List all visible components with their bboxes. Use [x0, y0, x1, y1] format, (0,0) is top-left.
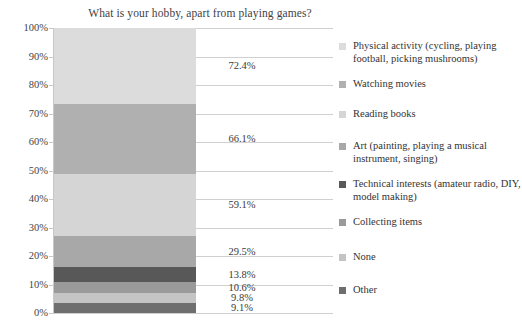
legend-swatch-icon — [339, 111, 346, 118]
y-axis-tick-label: 10% — [4, 279, 48, 290]
legend-swatch-icon — [339, 43, 346, 50]
y-axis-tick-mark — [49, 285, 53, 286]
legend-item[interactable]: Watching movies — [339, 78, 522, 91]
bar-segment[interactable] — [54, 28, 196, 104]
legend-swatch-icon — [339, 219, 346, 226]
bar-segment[interactable] — [54, 174, 196, 236]
legend-item-label: Reading books — [353, 108, 416, 121]
data-label: 59.1% — [202, 200, 282, 211]
stacked-bar-chart: What is your hobby, apart from playing g… — [0, 0, 522, 334]
y-axis-tick-mark — [49, 85, 53, 86]
y-axis-tick-mark — [49, 199, 53, 200]
y-axis-tick-mark — [49, 228, 53, 229]
legend-swatch-icon — [339, 143, 346, 150]
y-axis-tick-label: 100% — [4, 23, 48, 34]
legend-item-label: Watching movies — [353, 78, 426, 91]
y-axis-tick-label: 60% — [4, 137, 48, 148]
y-axis-tick-label: 30% — [4, 222, 48, 233]
chart-title: What is your hobby, apart from playing g… — [0, 7, 400, 19]
legend-item-label: None — [353, 251, 376, 264]
legend-swatch-icon — [339, 81, 346, 88]
legend-item[interactable]: Other — [339, 284, 522, 297]
data-label: 9.1% — [202, 303, 282, 314]
gridline — [54, 313, 333, 314]
legend-item-label: Other — [353, 284, 377, 297]
y-axis-tick-mark — [49, 256, 53, 257]
legend-item-label: Physical activity (cycling, playing foot… — [353, 40, 522, 65]
bar-segment[interactable] — [54, 104, 196, 174]
legend-item[interactable]: Art (painting, playing a musical instrum… — [339, 140, 522, 165]
bar-segment[interactable] — [54, 293, 196, 303]
legend-item-label: Collecting items — [353, 216, 422, 229]
y-axis: 100%90%80%70%60%50%40%30%20%10%0% — [0, 28, 48, 313]
data-label: 72.4% — [202, 61, 282, 72]
y-axis-tick-label: 70% — [4, 108, 48, 119]
y-axis-tick-label: 90% — [4, 51, 48, 62]
y-axis-tick-mark — [49, 313, 53, 314]
y-axis-tick-mark — [49, 142, 53, 143]
data-label: 13.8% — [202, 269, 282, 280]
legend-item-label: Art (painting, playing a musical instrum… — [353, 140, 522, 165]
legend-item[interactable]: Collecting items — [339, 216, 522, 229]
y-axis-tick-mark — [49, 28, 53, 29]
bar-segment[interactable] — [54, 282, 196, 293]
legend-item[interactable]: None — [339, 251, 522, 264]
y-axis-tick-label: 0% — [4, 308, 48, 319]
y-axis-tick-label: 50% — [4, 165, 48, 176]
y-axis-tick-mark — [49, 171, 53, 172]
bar-stack — [54, 28, 196, 313]
y-axis-tick-label: 80% — [4, 80, 48, 91]
legend-swatch-icon — [339, 181, 346, 188]
legend-item[interactable]: Technical interests (amateur radio, DIY,… — [339, 178, 522, 203]
legend-swatch-icon — [339, 254, 346, 261]
y-axis-tick-label: 40% — [4, 194, 48, 205]
bar-segment[interactable] — [54, 267, 196, 282]
legend-item[interactable]: Physical activity (cycling, playing foot… — [339, 40, 522, 65]
bar-segment[interactable] — [54, 303, 196, 313]
y-axis-tick-mark — [49, 114, 53, 115]
y-axis-tick-label: 20% — [4, 251, 48, 262]
bar-segment[interactable] — [54, 236, 196, 267]
data-label: 66.1% — [202, 134, 282, 145]
legend-item[interactable]: Reading books — [339, 108, 522, 121]
y-axis-tick-mark — [49, 57, 53, 58]
legend-item-label: Technical interests (amateur radio, DIY,… — [353, 178, 522, 203]
plot-area: 72.4%66.1%59.1%29.5%13.8%10.6%9.8%9.1% — [54, 28, 333, 313]
data-label: 29.5% — [202, 247, 282, 258]
legend-swatch-icon — [339, 287, 346, 294]
